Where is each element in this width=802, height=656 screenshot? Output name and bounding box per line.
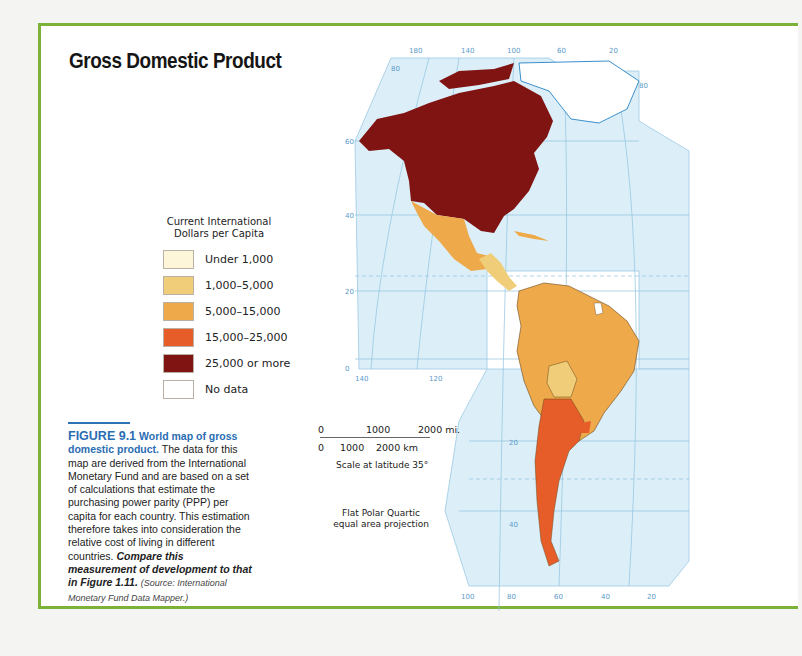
legend-title: Current International Dollars per Capita <box>153 216 285 240</box>
legend: Current International Dollars per Capita… <box>153 216 303 402</box>
projection-note: Flat Polar Quartic equal area projection <box>326 508 436 530</box>
caption-rule <box>68 422 130 424</box>
scale-note: Scale at latitude 35° <box>336 460 428 470</box>
figure-caption: FIGURE 9.1 World map of gross domestic p… <box>68 422 253 605</box>
lon-label-80-bottom: 80 <box>507 593 516 601</box>
lat-label-60: 60 <box>345 138 354 146</box>
lat-label-20-south: 20 <box>509 439 518 447</box>
legend-swatch <box>163 302 194 321</box>
scale-line <box>320 437 430 438</box>
lon-label-60-bottom: 60 <box>554 593 563 601</box>
lat-label-40: 40 <box>345 212 354 220</box>
legend-swatch <box>163 250 194 269</box>
lat-label-80: 80 <box>391 65 400 73</box>
lon-label-140: 140 <box>461 47 474 55</box>
page-title: Gross Domestic Product <box>69 48 281 74</box>
caption-body: The data for this map are derived from t… <box>68 443 250 561</box>
legend-swatch <box>163 354 194 373</box>
legend-item: 15,000–25,000 <box>153 324 303 350</box>
lon-label-100: 100 <box>507 47 520 55</box>
legend-swatch <box>163 328 194 347</box>
lon-label-20-bottom: 20 <box>647 593 656 601</box>
lon-label-60: 60 <box>557 47 566 55</box>
legend-swatch <box>163 380 194 399</box>
legend-item: No data <box>153 376 303 402</box>
lat-label-0: 0 <box>345 365 349 373</box>
legend-item: Under 1,000 <box>153 246 303 272</box>
lon-label-100-bottom: 100 <box>461 593 474 601</box>
lon-label-140-mid: 140 <box>355 375 368 383</box>
lon-label-20: 20 <box>609 47 618 55</box>
figure-number: FIGURE 9.1 <box>68 429 136 443</box>
legend-item: 25,000 or more <box>153 350 303 376</box>
figure-page: Gross Domestic Product <box>38 23 798 609</box>
legend-swatch <box>163 276 194 295</box>
lon-label-180: 180 <box>409 47 422 55</box>
lon-label-40-bottom: 40 <box>601 593 610 601</box>
scale-bar: 0 1000 2000 mi. 0 1000 2000 km Scale at … <box>318 424 478 454</box>
lon-label-120-mid: 120 <box>429 375 442 383</box>
lat-label-20: 20 <box>345 288 354 296</box>
legend-item: 1,000–5,000 <box>153 272 303 298</box>
lat-label-80-right: 80 <box>639 82 648 90</box>
lat-label-40-south: 40 <box>509 521 518 529</box>
legend-item: 5,000–15,000 <box>153 298 303 324</box>
